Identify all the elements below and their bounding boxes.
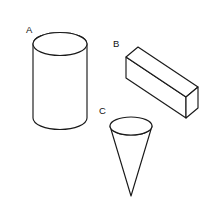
shape-label-a: A (26, 24, 33, 35)
shape-cone: C (99, 105, 152, 196)
solids-figure: A B C (0, 0, 221, 213)
shape-label-b: B (113, 38, 120, 49)
cone-top-ellipse (110, 117, 152, 135)
shape-label-c: C (99, 105, 106, 116)
cylinder-top-ellipse (33, 33, 87, 56)
shape-rectangular-prism: B (113, 38, 198, 118)
shape-cylinder: A (26, 24, 87, 130)
cone-body (110, 126, 152, 196)
